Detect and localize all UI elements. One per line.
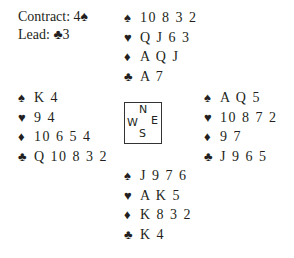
west-clubs: Q 10 8 3 2 [34,147,108,167]
north-clubs: A 7 [140,67,164,87]
club-icon: ♣ [124,67,138,87]
east-clubs: J 9 6 5 [220,147,267,167]
east-hearts: 10 8 7 2 [220,108,278,128]
east-spades: A Q 5 [220,88,261,108]
north-hand: ♠10 8 3 2 ♥Q J 6 3 ♦A Q J ♣A 7 [124,8,198,86]
lead-label: Lead: [18,27,53,42]
compass-west: W [127,116,138,129]
spade-icon: ♠ [18,88,32,108]
south-diamonds: K 8 3 2 [140,205,192,225]
diamond-icon: ♦ [124,205,138,225]
north-diamonds: A Q J [140,47,179,67]
south-spades: J 9 7 6 [140,166,187,186]
lead-card: 3 [63,27,70,42]
club-icon: ♣ [53,27,62,42]
compass-box: N W E S [124,102,162,144]
compass-south: S [139,127,146,140]
south-hearts: A K 5 [140,186,181,206]
heart-icon: ♥ [124,186,138,206]
club-icon: ♣ [124,225,138,245]
club-icon: ♣ [18,147,32,167]
contract-info: Contract: 4♠ Lead: ♣3 [18,8,88,44]
south-clubs: K 4 [140,225,165,245]
club-icon: ♣ [204,147,218,167]
diamond-icon: ♦ [204,127,218,147]
heart-icon: ♥ [124,28,138,48]
diamond-icon: ♦ [18,127,32,147]
west-diamonds: 10 6 5 4 [34,127,92,147]
spade-icon: ♠ [124,8,138,28]
west-hearts: 9 4 [34,108,56,128]
north-hearts: Q J 6 3 [140,28,191,48]
contract-label: Contract: 4 [18,9,81,24]
spade-icon: ♠ [124,166,138,186]
compass-north: N [139,103,147,116]
heart-icon: ♥ [204,108,218,128]
diamond-icon: ♦ [124,47,138,67]
heart-icon: ♥ [18,108,32,128]
spade-icon: ♠ [204,88,218,108]
lead-line: Lead: ♣3 [18,26,88,44]
contract-line: Contract: 4♠ [18,8,88,26]
east-hand: ♠A Q 5 ♥10 8 7 2 ♦9 7 ♣J 9 6 5 [204,88,278,166]
compass-east: E [151,114,158,127]
spade-icon: ♠ [81,9,88,24]
east-diamonds: 9 7 [220,127,242,147]
north-spades: 10 8 3 2 [140,8,198,28]
south-hand: ♠J 9 7 6 ♥A K 5 ♦K 8 3 2 ♣K 4 [124,166,192,244]
west-spades: K 4 [34,88,59,108]
west-hand: ♠K 4 ♥9 4 ♦10 6 5 4 ♣Q 10 8 3 2 [18,88,108,166]
